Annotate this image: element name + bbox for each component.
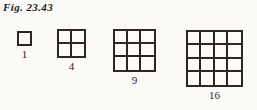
grid-cell <box>115 44 128 57</box>
grid-cell <box>188 59 201 72</box>
grid-cell <box>59 31 72 44</box>
figure-item-2: 4 <box>57 29 86 58</box>
grid-cell <box>128 44 141 57</box>
grid-cell <box>59 44 72 57</box>
grid-cell <box>215 32 228 45</box>
figure-label-3: 9 <box>113 74 156 86</box>
grid-cell <box>201 32 214 45</box>
grid-cell <box>19 33 30 44</box>
grid-cell <box>128 57 141 70</box>
grid-cell <box>128 31 141 44</box>
figure-item-1: 1 <box>17 31 32 46</box>
figure-item-4: 16 <box>186 30 243 87</box>
square-grid-3x3 <box>113 29 156 72</box>
figure-label-2: 4 <box>57 60 86 72</box>
grid-cell <box>188 32 201 45</box>
grid-cell <box>115 31 128 44</box>
grid-cell <box>141 44 154 57</box>
grid-cell <box>215 45 228 58</box>
grid-cell <box>201 72 214 85</box>
grid-cell <box>141 57 154 70</box>
square-grid-4x4 <box>186 30 243 87</box>
grid-cell <box>188 72 201 85</box>
grid-cell <box>228 72 241 85</box>
figure-label-4: 16 <box>186 89 243 101</box>
grid-cell <box>141 31 154 44</box>
grid-cell <box>72 44 85 57</box>
square-grid-2x2 <box>57 29 86 58</box>
figure-page: Fig. 23.43 1 4 9 16 <box>0 0 257 110</box>
square-grid-1x1 <box>17 31 32 46</box>
figure-label-1: 1 <box>17 48 32 60</box>
grid-cell <box>201 45 214 58</box>
grid-cell <box>188 45 201 58</box>
grid-cell <box>215 72 228 85</box>
grid-cell <box>228 59 241 72</box>
figure-item-3: 9 <box>113 29 156 72</box>
grid-cell <box>215 59 228 72</box>
grid-cell <box>228 45 241 58</box>
grid-cell <box>72 31 85 44</box>
grid-cell <box>228 32 241 45</box>
grid-cell <box>201 59 214 72</box>
figure-caption: Fig. 23.43 <box>3 1 53 13</box>
grid-cell <box>115 57 128 70</box>
